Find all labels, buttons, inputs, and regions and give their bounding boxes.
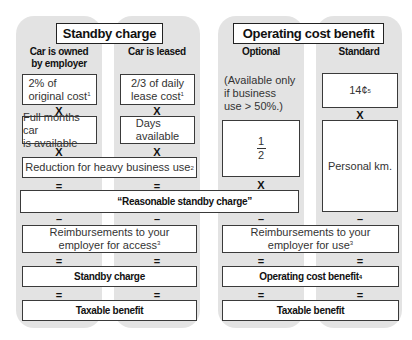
personal-km-box: Personal km. — [322, 120, 398, 212]
heading-leased: Car is leased — [114, 46, 200, 58]
heading-owned-line1: Car is owned — [16, 46, 102, 58]
optional-fraction-box: 1 2 — [222, 120, 300, 177]
operating-cost-result-box: Operating cost benefit4 — [222, 266, 399, 287]
minus-operator: – — [147, 214, 167, 225]
owned-rate-line1: 2% of — [28, 77, 90, 90]
optional-note-line2: if business — [224, 87, 304, 100]
standard-rate-box: 14¢5 — [322, 73, 398, 108]
minus-operator: – — [49, 214, 69, 225]
owned-months-box: Full months car is available — [22, 116, 97, 144]
footnote-3: 3 — [350, 240, 353, 246]
reimb-use-line1: Reimbursements to your — [251, 226, 371, 239]
leased-rate-line1: 2/3 of daily — [131, 77, 184, 90]
footnote-1: 1 — [87, 91, 90, 97]
reasonable-standby-label: “Reasonable standby charge” — [117, 195, 252, 208]
heading-owned-line2: by employer — [16, 58, 102, 70]
standby-charge-result-box: Standby charge — [22, 266, 197, 287]
reimb-access-line1: Reimbursements to your — [50, 226, 170, 239]
leased-days-box: Days available — [120, 116, 195, 144]
minus-operator: – — [350, 214, 370, 225]
fraction-denominator: 2 — [258, 150, 264, 161]
reimb-access-line2: employer for access — [59, 239, 157, 251]
reimbursement-use-box: Reimbursements to your employer for use3 — [222, 225, 399, 253]
reimbursement-access-box: Reimbursements to your employer for acce… — [22, 225, 197, 253]
owned-rate-box: 2% of original cost1 — [22, 74, 97, 105]
reduction-label: Reduction for heavy business use — [25, 161, 190, 174]
operating-taxable-benefit-box: Taxable benefit — [222, 300, 399, 321]
owned-rate-line2: original cost — [28, 90, 87, 102]
one-half-fraction: 1 2 — [257, 136, 266, 161]
standby-charge-header: Standby charge — [56, 23, 163, 44]
standby-taxable-benefit-box: Taxable benefit — [22, 300, 197, 321]
optional-note: (Available only if business use > 50%.) — [224, 74, 304, 113]
optional-note-line3: use > 50%.) — [224, 100, 304, 113]
operating-cost-result-label: Operating cost benefit — [259, 270, 359, 283]
fraction-numerator: 1 — [258, 136, 264, 147]
heading-optional: Optional — [218, 46, 304, 58]
standard-rate: 14¢ — [349, 84, 367, 97]
operating-cost-header: Operating cost benefit — [233, 23, 384, 44]
optional-note-line1: (Available only — [224, 74, 304, 87]
leased-days-line1: Days — [136, 117, 179, 130]
minus-operator: – — [251, 214, 271, 225]
footnote-1: 1 — [181, 91, 184, 97]
reasonable-standby-charge-box: “Reasonable standby charge” — [20, 190, 299, 213]
leased-days-line2: available — [136, 130, 179, 143]
heading-standard: Standard — [316, 46, 402, 58]
leased-rate-line2: lease cost — [131, 90, 181, 102]
heavy-business-reduction-box: Reduction for heavy business use2 — [22, 157, 197, 178]
owned-months-line1: Full months car — [23, 111, 96, 137]
footnote-3: 3 — [157, 240, 160, 246]
reimb-use-line2: employer for use — [268, 239, 350, 251]
leased-rate-box: 2/3 of daily lease cost1 — [120, 74, 195, 105]
heading-owned: Car is owned by employer — [16, 46, 102, 70]
